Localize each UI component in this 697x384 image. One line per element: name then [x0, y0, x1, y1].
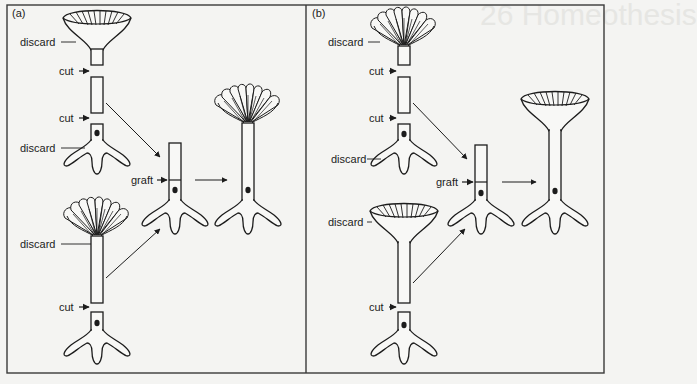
bottom-cell-stalk: [91, 236, 103, 303]
nucleus: [172, 187, 177, 193]
bottom-cut-label: cut: [369, 301, 384, 313]
nucleus: [478, 190, 483, 196]
result-cap-crenulated: [215, 84, 280, 123]
nucleus: [94, 320, 99, 326]
transfer-arrow: [106, 229, 160, 278]
top-cell-rhizoid: [64, 140, 130, 174]
nucleus: [401, 322, 406, 328]
bottom-cell-rhizoid: [64, 330, 130, 364]
nucleus: [94, 130, 99, 136]
panel-b: (b) discard cut cut discard discard cut: [312, 7, 589, 364]
rhizoid-discard-label: discard: [331, 153, 366, 165]
bottom-cap-discard-label: discard: [20, 238, 55, 250]
panel-label: (a): [12, 7, 25, 19]
rhizoid-discard-label: discard: [20, 142, 55, 154]
bottom-cell-cap-smooth: [370, 204, 438, 244]
middle-stalk-segment: [398, 77, 410, 113]
top-cell-cap-stalk-stub: [91, 49, 103, 65]
lower-cut-label: cut: [59, 112, 74, 124]
nucleus: [401, 131, 406, 137]
top-cell-cap-smooth: [63, 11, 131, 51]
cap-discard-label: discard: [328, 36, 363, 48]
bottom-cell-stalk: [398, 242, 410, 303]
graft-label: graft: [131, 174, 153, 186]
result-cap-smooth: [521, 92, 589, 132]
top-cell-cap-stalk-stub: [398, 46, 410, 65]
nucleus: [245, 187, 250, 193]
panel-a: (a) discard cut cut discard discard cut: [12, 7, 281, 364]
bottom-cell-rhizoid: [371, 330, 437, 364]
lower-cut-label: cut: [369, 112, 384, 124]
nucleus: [552, 188, 557, 194]
panel-label: (b): [312, 7, 325, 19]
upper-cut-label: cut: [369, 65, 384, 77]
top-cell-rhizoid: [371, 140, 437, 174]
graft-label: graft: [436, 176, 458, 188]
transfer-arrow: [413, 229, 465, 283]
top-cell-cap-crenulated: [371, 7, 436, 46]
bottom-cut-label: cut: [59, 301, 74, 313]
middle-stalk-segment: [91, 77, 103, 113]
bottom-cap-discard-label: discard: [328, 216, 363, 228]
cap-discard-label: discard: [20, 36, 55, 48]
bottom-cell-cap-crenulated: [64, 197, 129, 236]
upper-cut-label: cut: [59, 65, 74, 77]
